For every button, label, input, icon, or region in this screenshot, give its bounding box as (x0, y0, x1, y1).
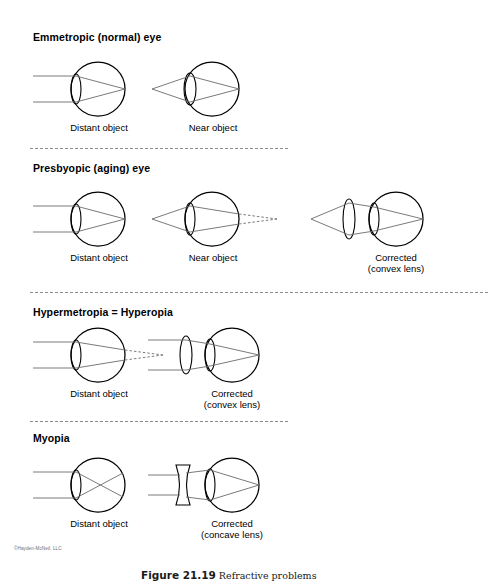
figure-caption: Figure 21.19 Refractive problems (141, 569, 317, 581)
label-myopia-distant: Distant object (58, 518, 140, 530)
diagram-myopia (0, 0, 501, 584)
eye-myopia-distant (33, 458, 125, 512)
figure-caption-text: Refractive problems (219, 570, 317, 581)
label-myopia-corrected: Corrected (191, 518, 273, 530)
refractive-problems-figure: Emmetropic (normal) eye Distant object N… (0, 0, 501, 584)
label-myopia-corrected-sub: (concave lens) (191, 529, 273, 541)
figure-number: Figure 21.19 (141, 569, 216, 581)
eye-myopia-corrected (148, 458, 259, 512)
copyright-notice: ©Hayden-McNeil, LLC (14, 546, 62, 551)
concave-lens-shape (176, 465, 190, 505)
